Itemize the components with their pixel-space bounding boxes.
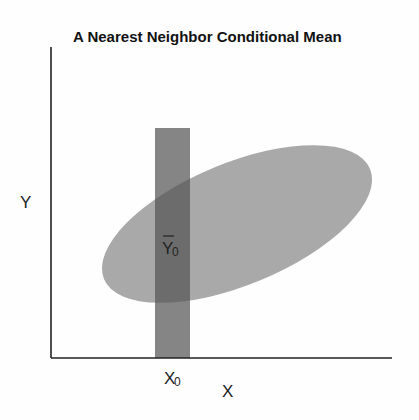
x0-label: X 0 bbox=[164, 369, 181, 389]
x-axis-label: X bbox=[222, 382, 233, 401]
y-axis-label: Y bbox=[20, 193, 31, 212]
data-ellipse bbox=[81, 113, 394, 336]
diagram-canvas: A Nearest Neighbor Conditional Mean Y X … bbox=[0, 0, 419, 420]
svg-text:0: 0 bbox=[172, 245, 179, 259]
chart-title: A Nearest Neighbor Conditional Mean bbox=[73, 28, 342, 45]
diagram: A Nearest Neighbor Conditional Mean Y X … bbox=[0, 0, 419, 420]
svg-text:0: 0 bbox=[174, 375, 181, 389]
